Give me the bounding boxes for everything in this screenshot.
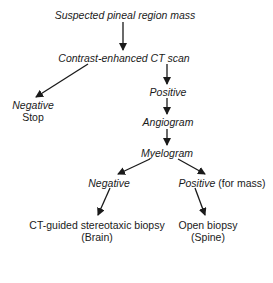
node-ct-scan: Contrast-enhanced CT scan [58,52,189,64]
positive-label: Positive [179,177,216,189]
arrow-myelogram-to-positive [178,159,205,174]
node-brain-biopsy: CT-guided stereotaxic biopsy (Brain) [29,219,164,243]
arrow-ct-to-negative [36,64,88,97]
node-myelogram-negative: Negative [88,177,129,189]
open-biopsy-label: Open biopsy [179,219,238,231]
node-suspected-mass: Suspected pineal region mass [55,9,196,21]
node-spine-biopsy: Open biopsy (Spine) [179,219,238,243]
node-myelogram-positive: Positive (for mass) [179,177,266,189]
stop-label: Stop [12,111,53,123]
node-angiogram: Angiogram [143,116,194,128]
node-myelogram: Myelogram [141,147,193,159]
for-mass-label: (for mass) [215,177,265,189]
arrow-negative-to-brain-biopsy [98,188,110,215]
arrow-myelogram-to-negative [118,159,150,174]
brain-biopsy-label: CT-guided stereotaxic biopsy [29,219,164,231]
node-ct-positive: Positive [150,86,187,98]
node-ct-negative: Negative Stop [12,99,53,123]
spine-label: (Spine) [179,231,238,243]
arrow-positive-to-spine-biopsy [195,188,205,215]
brain-label: (Brain) [29,231,164,243]
ct-negative-label: Negative [12,99,53,111]
